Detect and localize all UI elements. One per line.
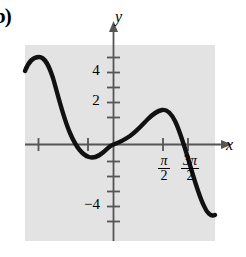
fraction-denominator: 2	[158, 169, 169, 183]
plot-svg	[0, 0, 246, 257]
x-tick-label-pi-over-2: π 2	[153, 154, 175, 184]
fraction-numerator: π	[158, 154, 169, 169]
fraction-pi-over-2: π 2	[158, 154, 169, 184]
fraction-numerator: 3π	[181, 154, 199, 169]
y-tick-label-4: 4	[88, 62, 104, 79]
x-axis-label: x	[226, 136, 233, 154]
x-axis	[25, 138, 232, 151]
fraction-denominator: 2	[181, 169, 199, 183]
y-tick-label-2: 2	[88, 92, 104, 109]
x-tick-label-3pi-over-2: 3π 2	[175, 154, 205, 184]
y-axis	[107, 21, 120, 241]
y-tick-label-neg4: −4	[80, 196, 104, 213]
y-axis-label: y	[115, 8, 122, 26]
math-figure: b) y	[0, 0, 246, 257]
fraction-3pi-over-2: 3π 2	[181, 154, 199, 184]
